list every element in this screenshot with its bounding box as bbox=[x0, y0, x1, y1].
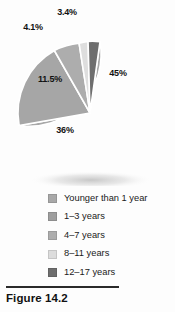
pie-chart-svg: 45% 36% 11.5% 4.1% 3.4% bbox=[0, 0, 175, 186]
pie-drop-shadow bbox=[29, 171, 153, 186]
legend-swatch-icon bbox=[48, 250, 57, 259]
legend-item-younger-than-1-year[interactable]: Younger than 1 year bbox=[0, 189, 175, 208]
pie-label-4-7-years: 11.5% bbox=[38, 74, 62, 84]
legend-label: 1–3 years bbox=[64, 212, 105, 221]
legend-label: 4–7 years bbox=[64, 231, 105, 240]
legend-item-1-3-years[interactable]: 1–3 years bbox=[0, 208, 175, 227]
pie-label-younger-than-1-year: 45% bbox=[109, 68, 127, 78]
legend-label: 8–11 years bbox=[64, 249, 109, 258]
legend-label: 12–17 years bbox=[64, 268, 115, 277]
pie-label-12-17-years: 3.4% bbox=[57, 7, 77, 17]
pie-chart: 45% 36% 11.5% 4.1% 3.4% bbox=[0, 0, 175, 186]
figure-caption: Figure 14.2 bbox=[6, 292, 175, 304]
legend-item-8-11-years[interactable]: 8–11 years bbox=[0, 245, 175, 264]
legend-item-12-17-years[interactable]: 12–17 years bbox=[0, 263, 175, 282]
pie-label-8-11-years: 4.1% bbox=[23, 22, 43, 32]
legend-label: Younger than 1 year bbox=[64, 194, 147, 203]
legend-swatch-icon bbox=[48, 194, 57, 203]
pie-label-1-3-years: 36% bbox=[56, 125, 74, 135]
legend-swatch-icon bbox=[48, 212, 57, 221]
legend-swatch-icon bbox=[48, 268, 57, 277]
legend-swatch-icon bbox=[48, 231, 57, 240]
figure-caption-block: Figure 14.2 bbox=[0, 286, 175, 304]
pie-slice-12-17-years[interactable] bbox=[88, 41, 100, 113]
figure-14-2: 45% 36% 11.5% 4.1% 3.4% Younger than 1 y… bbox=[0, 0, 175, 312]
chart-legend: Younger than 1 year 1–3 years 4–7 years … bbox=[0, 186, 175, 284]
caption-divider bbox=[6, 286, 119, 288]
legend-item-4-7-years[interactable]: 4–7 years bbox=[0, 226, 175, 245]
